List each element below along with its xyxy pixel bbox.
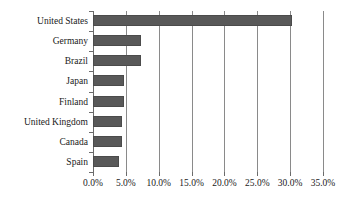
bar-chart: United StatesGermanyBrazilJapanFinlandUn… xyxy=(0,0,353,202)
y-axis-tick-label: Spain xyxy=(0,152,88,172)
bar-row xyxy=(93,112,323,132)
gridline xyxy=(323,11,324,172)
x-axis-tick-mark xyxy=(159,172,160,176)
x-axis-tick-mark xyxy=(126,172,127,176)
bar-row xyxy=(93,152,323,172)
bar-row xyxy=(93,92,323,112)
plot-area xyxy=(93,11,323,172)
x-axis-tick-mark xyxy=(290,172,291,176)
y-axis-tick-label: Germany xyxy=(0,31,88,51)
x-axis-tick-label: 35.0% xyxy=(301,178,345,188)
bar xyxy=(93,75,124,86)
bar xyxy=(93,15,292,26)
x-axis-tick-mark xyxy=(257,172,258,176)
bar-row xyxy=(93,31,323,51)
bar-row xyxy=(93,11,323,31)
bar-row xyxy=(93,71,323,91)
y-axis-labels: United StatesGermanyBrazilJapanFinlandUn… xyxy=(0,11,88,172)
bar xyxy=(93,116,122,127)
bar xyxy=(93,156,119,167)
bar xyxy=(93,55,141,66)
y-axis-tick-label: Finland xyxy=(0,92,88,112)
y-axis-tick-label: United States xyxy=(0,11,88,31)
bar xyxy=(93,136,122,147)
y-axis-tick-label: Japan xyxy=(0,71,88,91)
bar xyxy=(93,96,124,107)
bar xyxy=(93,35,141,46)
y-axis-tick-label: United Kingdom xyxy=(0,112,88,132)
bar-row xyxy=(93,51,323,71)
y-axis-tick-label: Brazil xyxy=(0,51,88,71)
x-axis-tick-mark xyxy=(192,172,193,176)
y-axis-tick-label: Canada xyxy=(0,132,88,152)
x-axis-tick-mark xyxy=(93,172,94,176)
bar-row xyxy=(93,132,323,152)
x-axis-tick-mark xyxy=(224,172,225,176)
x-axis-tick-mark xyxy=(323,172,324,176)
